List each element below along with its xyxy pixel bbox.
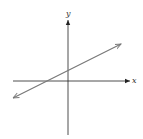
x-axis-label: x (132, 76, 137, 85)
y-axis-label: y (65, 9, 71, 18)
plotted-line (13, 44, 121, 98)
coordinate-plane: y x (0, 0, 143, 139)
